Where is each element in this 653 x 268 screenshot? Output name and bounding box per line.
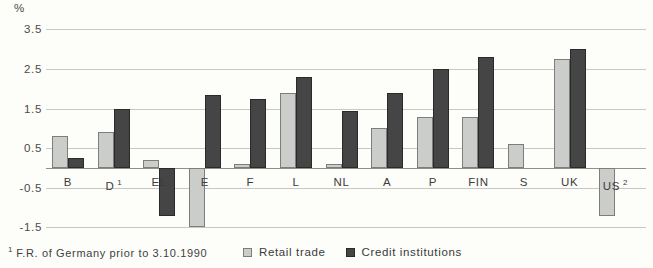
plot-area: 3.52.51.50.5-0.5-1.5BD 1ELEFLNLAPFINSUKU…: [0, 0, 653, 240]
y-tick-label-2.5: 2.5: [0, 62, 42, 76]
legend-label-retail-trade: Retail trade: [259, 246, 326, 258]
y-tick-label-3.5: 3.5: [0, 22, 42, 36]
x-label-L: L: [274, 176, 318, 189]
gridline-3.5: [46, 29, 646, 30]
x-label-S: S: [502, 176, 546, 189]
x-label-B: B: [46, 176, 90, 189]
bar-retail-trade-FIN: [462, 117, 478, 168]
bar-retail-trade-NL: [326, 164, 342, 168]
legend-swatch-retail-trade: [243, 248, 252, 257]
retail-credit-bar-chart: % 3.52.51.50.5-0.5-1.5BD 1ELEFLNLAPFINSU…: [0, 0, 653, 268]
bar-retail-trade-L: [280, 93, 296, 168]
legend-item-credit-institutions: Credit institutions: [346, 246, 462, 258]
bar-credit-institutions-A: [387, 93, 403, 168]
x-axis-zero-line: [46, 168, 646, 169]
bar-retail-trade-S: [508, 144, 524, 168]
bar-retail-trade-B: [52, 136, 68, 168]
bar-retail-trade-A: [371, 128, 387, 168]
bar-credit-institutions-D: [114, 109, 130, 168]
bar-retail-trade-EL: [143, 160, 159, 168]
bar-credit-institutions-L: [296, 77, 312, 168]
x-label-UK: UK: [548, 176, 592, 189]
x-label-D: D 1: [92, 176, 136, 193]
x-label-E: E: [183, 176, 227, 189]
legend-item-retail-trade: Retail trade: [243, 246, 326, 258]
bar-retail-trade-D: [98, 132, 114, 168]
footnote-marker: 1: [8, 245, 12, 254]
x-label-EL: EL: [137, 176, 181, 189]
x-label-FIN: FIN: [456, 176, 500, 189]
x-label-A: A: [365, 176, 409, 189]
bar-retail-trade-F: [234, 164, 250, 168]
bar-credit-institutions-E: [205, 95, 221, 168]
bar-credit-institutions-F: [250, 99, 266, 168]
footnote: 1 F.R. of Germany prior to 3.10.1990: [8, 245, 207, 259]
x-label-P: P: [411, 176, 455, 189]
x-label-NL: NL: [320, 176, 364, 189]
gridline--1.5: [46, 227, 646, 228]
legend-label-credit-institutions: Credit institutions: [362, 246, 462, 258]
legend-swatch-credit-institutions: [346, 248, 355, 257]
y-tick-label--0.5: -0.5: [0, 181, 42, 195]
bar-credit-institutions-B: [68, 158, 84, 168]
x-label-F: F: [228, 176, 272, 189]
y-tick-label-0.5: 0.5: [0, 141, 42, 155]
footnote-text: F.R. of Germany prior to 3.10.1990: [16, 247, 207, 259]
chart-legend: Retail tradeCredit institutions: [243, 246, 462, 258]
y-tick-label-1.5: 1.5: [0, 102, 42, 116]
x-label-US: US 2: [593, 176, 637, 193]
y-tick-label--1.5: -1.5: [0, 220, 42, 234]
bar-credit-institutions-P: [433, 69, 449, 168]
bar-retail-trade-P: [417, 117, 433, 168]
bar-credit-institutions-NL: [342, 111, 358, 168]
bar-credit-institutions-FIN: [478, 57, 494, 168]
bar-credit-institutions-UK: [570, 49, 586, 168]
bar-retail-trade-UK: [554, 59, 570, 168]
